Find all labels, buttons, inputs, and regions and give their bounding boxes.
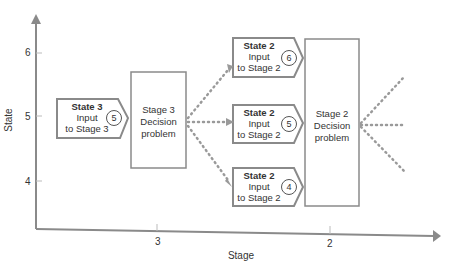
- input-stage2-6-number: 6: [281, 50, 297, 66]
- y-tick-6: 6: [25, 47, 31, 58]
- input-stage2-6-line1: Input: [233, 51, 285, 62]
- decision-stage3-text: Stage 3 Decision problem: [131, 104, 186, 140]
- input-stage3-line2: to Stage 3: [58, 123, 116, 134]
- y-axis-label: State: [3, 105, 15, 135]
- input-stage2-4-number: 4: [281, 179, 297, 195]
- decision-stage2-text: Stage 2 Decision problem: [305, 108, 359, 144]
- y-tick-5: 5: [25, 111, 31, 122]
- input-stage2-4-line1: Input: [233, 181, 285, 192]
- input-stage3-number: 5: [106, 110, 122, 126]
- input-stage2-6-title: State 2: [233, 40, 285, 51]
- x-axis: [36, 229, 434, 236]
- input-stage2-6-text: State 2 Input to Stage 2: [233, 40, 285, 73]
- input-stage2-5-line1: Input: [233, 118, 285, 129]
- x-axis-arrow-icon: [433, 230, 441, 242]
- y-tick-4: 4: [25, 176, 31, 187]
- decision-stage2-line2: Decision: [305, 120, 359, 132]
- x-tick-3: 3: [155, 236, 161, 247]
- input-stage3-title: State 3: [58, 101, 116, 112]
- diagram-canvas: [0, 0, 450, 274]
- decision-stage3-line1: Stage 3: [131, 104, 186, 116]
- x-axis-label: Stage: [226, 250, 256, 262]
- input-stage2-6-line2: to Stage 2: [233, 62, 285, 73]
- decision-stage2-line3: problem: [305, 132, 359, 144]
- decision-stage2-line1: Stage 2: [305, 108, 359, 120]
- input-stage2-5-title: State 2: [233, 107, 285, 118]
- input-stage2-5-number: 5: [281, 116, 297, 132]
- input-stage2-4-title: State 2: [233, 170, 285, 181]
- input-stage2-4-line2: to Stage 2: [233, 192, 285, 203]
- input-stage2-5-text: State 2 Input to Stage 2: [233, 107, 285, 140]
- y-axis-arrow-icon: [31, 14, 41, 24]
- input-stage2-5-line2: to Stage 2: [233, 129, 285, 140]
- x-tick-2: 2: [327, 238, 333, 249]
- decision-stage3-line3: problem: [131, 128, 186, 140]
- input-stage2-4-text: State 2 Input to Stage 2: [233, 170, 285, 203]
- decision-stage3-line2: Decision: [131, 116, 186, 128]
